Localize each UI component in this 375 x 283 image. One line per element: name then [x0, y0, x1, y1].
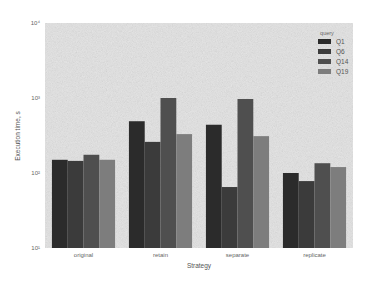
legend-title: query: [320, 30, 334, 36]
x-axis-label: Strategy: [187, 262, 212, 270]
y-tick-label: 10⁴: [31, 20, 41, 26]
bar-chart: 10¹10²10³10⁴ originalretainseparaterepli…: [0, 0, 375, 283]
bar-retain-q6: [145, 142, 161, 248]
legend-swatch-q1: [318, 39, 331, 44]
y-tick-label: 10³: [31, 95, 40, 101]
x-axis-ticks: originalretainseparatereplicate: [74, 252, 327, 258]
y-axis-label: Execution time, s: [14, 111, 21, 161]
y-axis-ticks: 10¹10²10³10⁴: [31, 20, 41, 251]
y-tick-label: 10²: [31, 170, 40, 176]
bar-separate-q1: [206, 125, 222, 248]
x-tick-label: separate: [226, 252, 250, 258]
bar-replicate-q19: [330, 167, 346, 248]
bar-separate-q14: [238, 99, 254, 248]
legend-label-q14: Q14: [336, 58, 349, 66]
legend-swatch-q19: [318, 69, 331, 74]
bar-original-q19: [99, 160, 115, 248]
bar-replicate-q1: [283, 173, 299, 248]
bar-separate-q6: [222, 187, 238, 248]
legend-label-q1: Q1: [336, 38, 345, 46]
bar-original-q6: [68, 161, 84, 248]
legend-label-q19: Q19: [336, 68, 349, 76]
bar-separate-q19: [253, 136, 269, 248]
bar-retain-q19: [176, 134, 192, 248]
legend-label-q6: Q6: [336, 48, 345, 56]
legend-swatch-q14: [318, 59, 331, 64]
bar-original-q14: [84, 155, 100, 248]
x-tick-label: retain: [153, 252, 168, 258]
bar-retain-q14: [161, 98, 177, 248]
bar-retain-q1: [129, 121, 145, 248]
bar-replicate-q6: [299, 181, 315, 248]
legend-swatch-q6: [318, 49, 331, 54]
bar-original-q1: [52, 160, 68, 248]
x-tick-label: original: [74, 252, 93, 258]
y-tick-label: 10¹: [31, 245, 40, 251]
x-tick-label: replicate: [303, 252, 326, 258]
bar-replicate-q14: [315, 163, 331, 248]
